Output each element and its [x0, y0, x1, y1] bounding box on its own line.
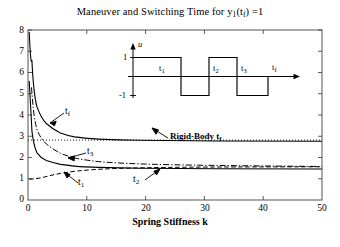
x-tick-marks	[87, 30, 263, 200]
curve-label-tf: tf	[65, 106, 70, 118]
inset-u-label: u	[138, 39, 142, 49]
inset-label-tf: tf	[272, 62, 277, 73]
inset-label-t3: t3	[241, 63, 247, 74]
plot-canvas	[0, 0, 340, 247]
curve-label-t2: t2	[133, 174, 139, 186]
inset-ytick-low-label: -1	[119, 90, 126, 100]
rigid-body-label: Rigid-Body tf	[170, 131, 222, 143]
inset-label-t1: t1	[159, 63, 165, 74]
curve-t1	[29, 81, 322, 169]
inset-ytick-high-label: 1	[123, 52, 127, 62]
chart-figure: Maneuver and Switching Time for y1(tf) =…	[0, 0, 340, 247]
curve-label-t3: t3	[87, 146, 93, 158]
inset-t-axis-arrowhead	[294, 74, 301, 79]
inset-u-axis-arrowhead	[130, 43, 135, 50]
inset-label-t2: t2	[213, 63, 219, 74]
plot-frame	[28, 30, 322, 200]
curve-tf	[29, 32, 322, 141]
curve-label-t1: t1	[78, 177, 84, 189]
curve-t3	[32, 87, 323, 166]
